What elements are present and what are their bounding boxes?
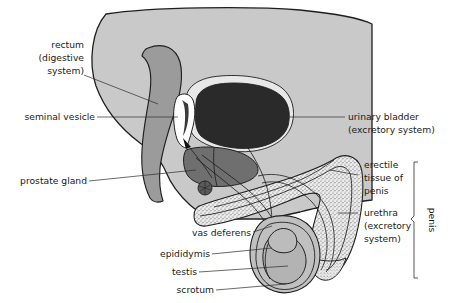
label-urethra-line1: urethra <box>364 207 398 218</box>
label-testis: testis <box>172 266 197 277</box>
label-urinary-bladder-line1: urinary bladder <box>348 111 419 122</box>
scrotum-group <box>250 216 320 293</box>
label-erectile-tissue-line1: erectile <box>364 159 399 170</box>
label-seminal-vesicle: seminal vesicle <box>24 111 95 122</box>
label-urethra-line2: (excretory <box>364 220 412 231</box>
bulbourethral-gland-group <box>198 181 212 195</box>
label-rectum-line1: rectum <box>51 39 84 50</box>
label-erectile-tissue-line2: tissue of <box>364 172 404 183</box>
bladder-group <box>186 75 294 151</box>
label-urethra-line3: system) <box>364 233 401 244</box>
label-vas-deferens: vas deferens <box>192 227 251 238</box>
label-rectum-line2: (digestive <box>39 52 85 63</box>
penis-bracket-group <box>411 162 418 278</box>
label-prostate-gland: prostate gland <box>20 175 87 186</box>
label-scrotum: scrotum <box>177 284 214 295</box>
label-erectile-tissue-line3: penis <box>364 185 389 196</box>
label-rectum-line3: system) <box>47 65 84 76</box>
penis-bracket <box>411 162 418 278</box>
label-penis-bracket: penis <box>427 208 438 233</box>
label-epididymis: epididymis <box>160 248 210 259</box>
bladder-shape <box>195 83 289 148</box>
anatomy-diagram: rectum (digestive system) seminal vesicl… <box>0 0 451 303</box>
figure-svg: rectum (digestive system) seminal vesicl… <box>0 0 451 303</box>
label-urinary-bladder-line2: (excretory system) <box>348 124 435 135</box>
